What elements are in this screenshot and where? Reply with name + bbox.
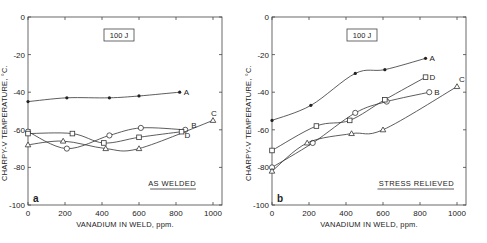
series-line — [272, 92, 429, 167]
open-square-marker — [26, 131, 31, 136]
filled-circle-marker — [65, 96, 68, 99]
open-square-marker — [347, 118, 352, 123]
filled-circle-marker — [26, 100, 29, 103]
x-tick-label: 0 — [26, 209, 31, 218]
chart-figure: 0-20-40-60-80-10002004006008001000VANADI… — [0, 0, 487, 243]
filled-circle-marker — [424, 57, 427, 60]
series-line — [272, 58, 426, 120]
open-square-marker — [383, 97, 388, 102]
panel-letter: a — [33, 193, 39, 204]
series-line — [28, 92, 180, 101]
panel-a: 0-20-40-60-80-10002004006008001000VANADI… — [0, 13, 222, 229]
open-square-marker — [179, 129, 184, 134]
series-line — [28, 128, 185, 149]
y-tick-label: -100 — [253, 201, 270, 210]
open-triangle-marker — [304, 140, 310, 145]
y-axis-label: CHARPY-V TEMPERATURE, °C. — [0, 65, 9, 181]
y-tick-label: -20 — [257, 51, 269, 60]
condition-annotation: AS WELDED — [148, 179, 196, 188]
panel-b: 0-20-40-60-80-10002004006008001000VANADI… — [244, 13, 466, 229]
x-tick-label: 800 — [169, 209, 183, 218]
y-tick-label: -100 — [9, 201, 26, 210]
series-label-C: C — [459, 75, 465, 84]
series-B: B — [269, 88, 439, 170]
x-axis-label: VANADIUM IN WELD, ppm. — [320, 220, 418, 229]
y-tick-label: -40 — [257, 88, 269, 97]
energy-box-label: 100 J — [353, 31, 372, 40]
open-circle-marker — [427, 90, 432, 95]
open-circle-marker — [64, 146, 69, 151]
y-tick-label: -40 — [13, 88, 25, 97]
open-circle-marker — [353, 110, 358, 115]
y-tick-label: -80 — [257, 163, 269, 172]
series-label-D: D — [185, 131, 191, 140]
filled-circle-marker — [270, 119, 273, 122]
filled-circle-marker — [383, 68, 386, 71]
series-label-A: A — [430, 54, 436, 63]
x-tick-label: 400 — [95, 209, 109, 218]
y-tick-label: -60 — [13, 126, 25, 135]
x-tick-label: 400 — [339, 209, 353, 218]
open-square-marker — [423, 75, 428, 80]
y-tick-label: -20 — [13, 51, 25, 60]
series-line — [272, 87, 457, 172]
x-axis-label: VANADIUM IN WELD, ppm. — [76, 220, 174, 229]
open-circle-marker — [138, 125, 143, 130]
filled-circle-marker — [108, 96, 111, 99]
y-axis-label: CHARPY-V TEMPERATURE, °C. — [244, 65, 253, 181]
condition-annotation: STRESS RELIEVED — [379, 179, 454, 188]
filled-circle-marker — [137, 94, 140, 97]
series-A: A — [26, 88, 189, 103]
x-tick-label: 800 — [413, 209, 427, 218]
x-tick-label: 0 — [270, 209, 275, 218]
panel-letter: b — [277, 193, 283, 204]
x-tick-label: 1000 — [204, 209, 222, 218]
y-tick-label: 0 — [21, 13, 26, 22]
series-label-C: C — [211, 109, 217, 118]
open-circle-marker — [107, 133, 112, 138]
series-label-A: A — [184, 88, 190, 97]
open-square-marker — [270, 148, 275, 153]
filled-circle-marker — [178, 91, 181, 94]
open-square-marker — [102, 141, 107, 146]
y-tick-label: -80 — [13, 163, 25, 172]
x-tick-label: 200 — [302, 209, 316, 218]
plot-frame — [272, 17, 466, 205]
filled-circle-marker — [354, 72, 357, 75]
x-tick-label: 600 — [132, 209, 146, 218]
x-tick-label: 600 — [376, 209, 390, 218]
series-label-D: D — [430, 73, 436, 82]
open-triangle-marker — [380, 127, 386, 132]
series-B: B — [25, 121, 196, 151]
filled-circle-marker — [309, 104, 312, 107]
open-square-marker — [314, 124, 319, 129]
series-label-B: B — [434, 88, 439, 97]
open-triangle-marker — [454, 84, 460, 89]
y-tick-label: 0 — [265, 13, 270, 22]
energy-box-label: 100 J — [110, 31, 129, 40]
open-square-marker — [70, 131, 75, 136]
y-tick-label: -60 — [257, 126, 269, 135]
x-tick-label: 1000 — [448, 209, 466, 218]
plot-frame — [28, 17, 222, 205]
series-line — [272, 77, 426, 150]
x-tick-label: 200 — [58, 209, 72, 218]
open-square-marker — [137, 135, 142, 140]
